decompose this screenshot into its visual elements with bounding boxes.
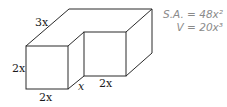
- inner-face: [84, 32, 126, 76]
- label-front-width: 2x: [39, 91, 52, 104]
- bottom-right-depth-edge: [126, 53, 152, 76]
- formula-block: S.A. = 48x² V = 20x³: [163, 8, 223, 34]
- surface-area-formula: S.A. = 48x²: [163, 8, 223, 21]
- label-notch-depth: x: [78, 80, 84, 93]
- front-face: [26, 46, 68, 89]
- label-top-depth: 3x: [35, 16, 48, 29]
- volume-formula: V = 20x³: [163, 21, 223, 34]
- right-top-depth-edge: [126, 9, 152, 32]
- label-inner-width: 2x: [99, 77, 112, 90]
- notch-top-edge: [68, 32, 84, 46]
- label-front-height: 2x: [12, 62, 25, 75]
